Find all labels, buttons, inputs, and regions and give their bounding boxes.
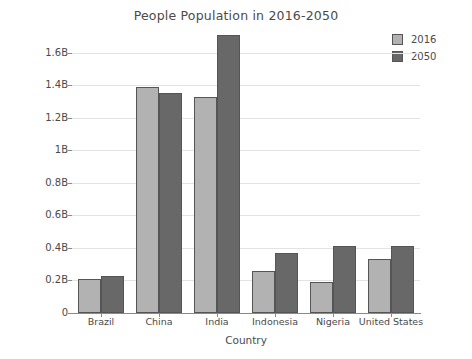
bar-group-brazil: [78, 20, 124, 313]
bar-group-china: [136, 20, 182, 313]
bar-indonesia-2016[interactable]: [252, 271, 275, 313]
y-tick-label: 0.4B: [24, 242, 68, 253]
x-tick-label-brazil: Brazil: [88, 316, 115, 327]
bar-group-india: [194, 20, 240, 313]
x-axis-labels: BrazilChinaIndiaIndonesiaNigeriaUnited S…: [72, 316, 420, 330]
bar-india-2050[interactable]: [217, 35, 240, 313]
bar-brazil-2016[interactable]: [78, 279, 101, 313]
y-tick-label: 1.6B: [24, 47, 68, 58]
x-tick-label-china: China: [145, 316, 172, 327]
bar-nigeria-2016[interactable]: [310, 282, 333, 313]
bar-nigeria-2050[interactable]: [333, 246, 356, 313]
y-tick-label: 0: [24, 307, 68, 318]
bar-brazil-2050[interactable]: [101, 276, 124, 313]
x-axis-title: Country: [72, 334, 420, 346]
bar-chart: People Population in 2016-2050 20162050 …: [0, 0, 472, 359]
bar-group-indonesia: [252, 20, 298, 313]
bar-india-2016[interactable]: [194, 97, 217, 313]
x-tick-label-india: India: [205, 316, 228, 327]
bar-group-nigeria: [310, 20, 356, 313]
bar-china-2050[interactable]: [159, 93, 182, 313]
x-tick-label-indonesia: Indonesia: [252, 316, 298, 327]
y-axis-ticks: 00.2B0.4B0.6B0.8B1B1.2B1.4B1.6B: [20, 20, 68, 313]
y-tick-label: 0.8B: [24, 177, 68, 188]
bar-group-united-states: [368, 20, 414, 313]
bars-layer: [72, 20, 420, 313]
y-tick-label: 1.2B: [24, 112, 68, 123]
x-tick-label-nigeria: Nigeria: [316, 316, 350, 327]
y-tick-label: 0.2B: [24, 274, 68, 285]
bar-indonesia-2050[interactable]: [275, 253, 298, 313]
bar-united-states-2016[interactable]: [368, 259, 391, 313]
y-tick-label: 0.6B: [24, 209, 68, 220]
bar-united-states-2050[interactable]: [391, 246, 414, 313]
y-tick-label: 1B: [24, 144, 68, 155]
y-tick-label: 1.4B: [24, 79, 68, 90]
bar-china-2016[interactable]: [136, 87, 159, 313]
x-tick-label-united-states: United States: [359, 316, 423, 327]
